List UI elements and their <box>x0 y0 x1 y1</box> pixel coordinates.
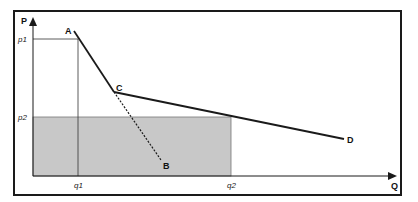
point-c-label: C <box>116 83 123 93</box>
point-a-label: A <box>65 26 72 36</box>
tick-p2: p2 <box>17 113 27 122</box>
tick-p1: p1 <box>17 35 27 44</box>
tick-q2: q2 <box>227 181 236 190</box>
x-axis-arrow-icon <box>388 172 397 180</box>
tick-q1: q1 <box>74 181 83 190</box>
y-axis-label: P <box>21 16 27 26</box>
point-d-label: D <box>347 135 354 145</box>
kinked-demand-diagram: P Q p1 p2 q1 q2 A C B D <box>0 0 418 202</box>
y-axis-arrow-icon <box>29 17 37 26</box>
point-b-label: B <box>163 161 170 171</box>
demand-segment-ac <box>74 31 114 92</box>
x-axis-label: Q <box>391 181 398 191</box>
revenue-shaded-area <box>33 117 231 176</box>
